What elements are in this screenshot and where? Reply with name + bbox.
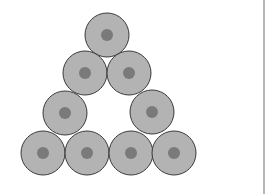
circle-element xyxy=(65,131,109,175)
circle-element xyxy=(63,51,107,95)
circle-element xyxy=(43,91,87,135)
inner-core-dot xyxy=(125,147,137,159)
circle-element xyxy=(85,13,129,57)
inner-core-dot xyxy=(146,106,158,118)
inner-core-dot xyxy=(123,67,135,79)
circle-element xyxy=(107,51,151,95)
circle-element xyxy=(152,131,196,175)
circle-triangle-diagram xyxy=(0,0,271,194)
circle-element xyxy=(21,131,65,175)
circle-group xyxy=(21,13,196,175)
inner-core-dot xyxy=(101,29,113,41)
circle-element xyxy=(130,90,174,134)
circle-element xyxy=(109,131,153,175)
inner-core-dot xyxy=(168,147,180,159)
inner-core-dot xyxy=(59,107,71,119)
inner-core-dot xyxy=(37,147,49,159)
inner-core-dot xyxy=(79,67,91,79)
inner-core-dot xyxy=(81,147,93,159)
